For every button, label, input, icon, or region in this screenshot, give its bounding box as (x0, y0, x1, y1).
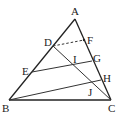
geometry-diagram: A B C D E F G H I J (0, 0, 122, 117)
label-d: D (44, 36, 52, 48)
point-f-dot (83, 39, 85, 41)
label-c: C (108, 102, 115, 114)
label-i: I (73, 53, 77, 65)
label-f: F (87, 34, 93, 46)
label-h: H (103, 72, 111, 84)
segment-eg (32, 61, 92, 72)
label-e: E (22, 65, 29, 77)
label-g: G (93, 52, 101, 64)
label-b: B (2, 102, 9, 114)
label-a: A (71, 5, 79, 17)
label-j: J (88, 86, 93, 98)
